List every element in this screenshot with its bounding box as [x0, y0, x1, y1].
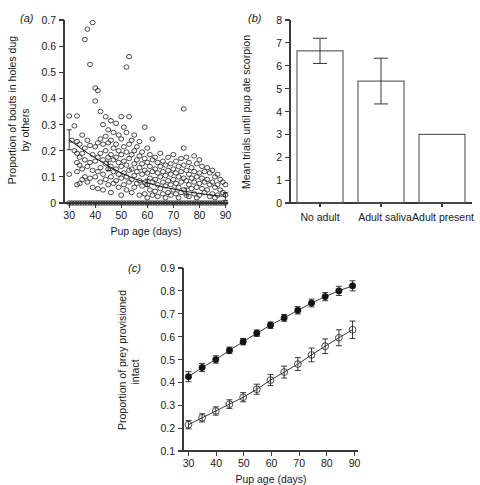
scatter-point: [101, 142, 106, 146]
panel-b-error-bars: [313, 38, 388, 104]
scatter-point: [142, 125, 147, 129]
data-point-error-bar: [322, 339, 328, 354]
panel-c-xtick-30: 30: [183, 457, 195, 469]
scatter-point: [137, 193, 142, 197]
scatter-point: [88, 62, 93, 66]
panel-c-ytick-2: 0.3: [160, 399, 175, 411]
data-point: [308, 300, 314, 306]
panel-c-ytick-8: 0.9: [160, 262, 175, 274]
data-point: [322, 293, 328, 299]
scatter-point: [82, 158, 87, 162]
panel-b-ytick-2: 2: [276, 151, 282, 163]
scatter-point: [93, 175, 98, 179]
panel-c-ytick-4: 0.5: [160, 354, 175, 366]
scatter-point: [189, 186, 194, 190]
scatter-point: [67, 172, 72, 176]
scatter-point: [127, 115, 132, 119]
scatter-point: [98, 109, 103, 113]
panel-a-ytick-6: 0.6: [41, 40, 56, 52]
panel-c-xtick-50: 50: [238, 457, 250, 469]
panel-a-xtick-60: 60: [142, 209, 154, 221]
scatter-point: [163, 163, 168, 167]
scatter-point: [114, 142, 119, 146]
scatter-point: [171, 152, 176, 156]
scatter-point: [163, 196, 168, 200]
data-point: [336, 288, 342, 294]
scatter-point: [181, 163, 186, 167]
panel-c: (c) Proportion of prey provisioned intac…: [116, 262, 360, 485]
scatter-point: [140, 162, 145, 166]
scatter-point: [108, 118, 113, 122]
panel-c-ytick-3: 0.4: [160, 376, 175, 388]
scatter-point: [88, 160, 93, 164]
panel-b-ytick-6: 6: [276, 60, 282, 72]
scatter-point: [155, 194, 160, 198]
data-point: [281, 315, 287, 321]
panel-a-ylabel-line1: Proportion of bouts in holes dug: [6, 36, 18, 184]
scatter-point: [106, 128, 111, 132]
scatter-point: [127, 54, 132, 58]
scatter-point: [101, 188, 106, 192]
panel-c-ytick-0: 0.1: [160, 445, 175, 457]
scatter-point: [80, 151, 85, 155]
scatter-point: [181, 146, 186, 150]
panel-a-y-ticks: 0 0.1 0.2 0.3 0.4 0.5 0.6 0.7: [41, 14, 64, 209]
panel-c-xlabel: Pup age (days): [235, 473, 306, 485]
bar: [297, 51, 343, 203]
panel-a-xtick-80: 80: [194, 209, 206, 221]
data-point-error-bar: [350, 321, 356, 338]
data-point: [349, 283, 355, 289]
scatter-point: [158, 164, 163, 168]
scatter-point: [129, 138, 134, 142]
panel-a-ylabel-line2: by others: [19, 108, 31, 151]
panel-c-xtick-90: 90: [349, 457, 361, 469]
panel-c-xtick-70: 70: [293, 457, 305, 469]
series-filled-circles: [185, 281, 355, 382]
scientific-figure: (a) Proportion of bouts in holes dug by …: [0, 0, 480, 485]
panel-a-xtick-30: 30: [63, 209, 75, 221]
scatter-point: [80, 167, 85, 171]
scatter-point: [199, 164, 204, 168]
scatter-point: [168, 172, 173, 176]
scatter-point: [137, 139, 142, 143]
scatter-point: [88, 143, 93, 147]
panel-b-cat-2: Adult present: [412, 211, 474, 223]
panel-b-category-labels: No adult Adult saliva Adult present: [300, 211, 474, 223]
panel-b-label: (b): [248, 12, 262, 24]
panel-b-y-ticks: 0 1 2 3 4 5 6 7 8: [276, 14, 290, 209]
fit-error-bar: [67, 130, 72, 150]
scatter-point: [106, 183, 111, 187]
scatter-point: [192, 169, 197, 173]
scatter-point: [119, 137, 124, 141]
scatter-point: [108, 190, 113, 194]
panel-c-label: (c): [128, 262, 141, 274]
scatter-point: [179, 156, 184, 160]
panel-c-ytick-7: 0.8: [160, 285, 175, 297]
scatter-point: [119, 115, 124, 119]
scatter-point: [129, 190, 134, 194]
scatter-point: [85, 138, 90, 142]
scatter-point: [98, 151, 103, 155]
scatter-point: [95, 186, 100, 190]
scatter-point: [67, 114, 72, 118]
scatter-point: [140, 150, 145, 154]
scatter-point: [75, 114, 80, 118]
panel-a-xtick-50: 50: [115, 209, 127, 221]
scatter-point: [90, 168, 95, 172]
scatter-point: [103, 177, 108, 181]
data-point: [240, 339, 246, 345]
panel-c-x-ticks: 30 40 50 60 70 80 90: [183, 451, 361, 469]
panel-a-x-ticks: 30 40 50 60 70 80 90: [63, 203, 231, 221]
scatter-point: [114, 121, 119, 125]
scatter-point: [163, 173, 168, 177]
scatter-point: [166, 155, 171, 159]
scatter-point: [121, 183, 126, 187]
scatter-point: [119, 164, 124, 168]
panel-b-cat-1: Adult saliva: [358, 211, 412, 223]
scatter-point: [121, 125, 126, 129]
scatter-point: [181, 107, 186, 111]
panel-a-ytick-7: 0.7: [41, 14, 56, 26]
scatter-point: [88, 176, 93, 180]
panel-b-ytick-5: 5: [276, 83, 282, 95]
panel-b-ytick-0: 0: [276, 197, 282, 209]
